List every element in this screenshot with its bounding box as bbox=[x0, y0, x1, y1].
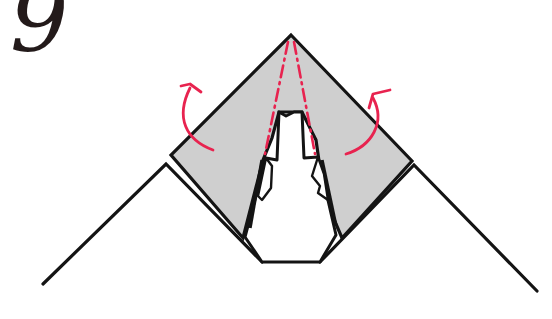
fold-arrow-right-head-icon bbox=[369, 90, 390, 108]
origami-diagram bbox=[0, 0, 552, 319]
